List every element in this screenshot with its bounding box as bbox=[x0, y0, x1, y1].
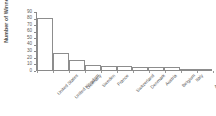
bar bbox=[37, 18, 53, 70]
x-tick-label: Belgium bbox=[181, 73, 197, 89]
y-tick-mark bbox=[34, 38, 36, 39]
bar bbox=[196, 69, 212, 70]
y-tick-label: 10 bbox=[27, 61, 32, 67]
x-tick-label: Sweden bbox=[101, 73, 117, 89]
bar bbox=[69, 60, 85, 70]
x-tick-label: Austria bbox=[164, 73, 178, 87]
y-tick-label: 50 bbox=[27, 35, 32, 41]
x-axis-line bbox=[36, 70, 212, 71]
y-tick-mark bbox=[34, 71, 36, 72]
x-tick-label: Italy bbox=[194, 73, 204, 83]
y-tick-label: 70 bbox=[27, 22, 32, 28]
x-tick-label: Germany bbox=[86, 73, 104, 91]
bar bbox=[85, 65, 101, 70]
plot-area: 0102030405060708090 bbox=[36, 12, 212, 71]
bar bbox=[117, 66, 133, 70]
bar bbox=[148, 67, 164, 70]
y-tick-label: 60 bbox=[27, 28, 32, 34]
bar bbox=[180, 69, 196, 70]
y-axis-title: Number of Winners bbox=[0, 0, 12, 50]
x-tick-label: France bbox=[116, 73, 130, 87]
y-tick-label: 0 bbox=[29, 68, 32, 74]
y-tick-mark bbox=[34, 12, 36, 13]
x-axis-labels: United StatesUnited KingdomGermanySweden… bbox=[36, 73, 212, 116]
y-tick-mark bbox=[34, 58, 36, 59]
y-tick-mark bbox=[34, 64, 36, 65]
y-tick-mark bbox=[34, 19, 36, 20]
y-tick-label: 90 bbox=[27, 9, 32, 15]
y-tick-label: 80 bbox=[27, 15, 32, 21]
y-tick-label: 30 bbox=[27, 48, 32, 54]
x-tick-mark bbox=[213, 71, 214, 73]
bar bbox=[164, 67, 180, 70]
y-tick-mark bbox=[34, 51, 36, 52]
y-tick-label: 40 bbox=[27, 41, 32, 47]
bar bbox=[53, 53, 69, 70]
bar bbox=[101, 66, 117, 71]
y-tick-mark bbox=[34, 25, 36, 26]
y-tick-mark bbox=[34, 32, 36, 33]
y-tick-mark bbox=[34, 45, 36, 46]
x-tick-label: Australia bbox=[213, 73, 216, 90]
bar-chart: Number of Winners 0102030405060708090 Un… bbox=[0, 0, 216, 116]
y-tick-label: 20 bbox=[27, 55, 32, 61]
bar-series bbox=[37, 12, 212, 70]
bar bbox=[132, 67, 148, 70]
